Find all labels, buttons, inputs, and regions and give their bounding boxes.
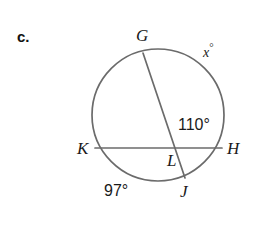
arc-label-97-degrees: 97° [104,183,128,199]
angle-label-110-degrees: 110° [178,117,210,133]
problem-letter-label: c. [17,29,30,44]
point-label-j: J [180,183,188,200]
circle-diagram-svg [0,0,262,226]
degree-symbol-icon: ° [209,41,213,53]
point-label-l: L [167,152,176,169]
circle-outline [92,49,224,181]
point-label-k: K [77,140,88,157]
point-label-g: G [136,27,148,44]
arc-label-x-degrees: x° [203,42,214,60]
point-label-h: H [227,140,239,157]
geometry-figure: c. G K H L J x° 110° 97° [0,0,262,226]
